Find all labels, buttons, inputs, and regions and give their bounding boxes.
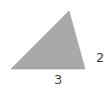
base-length-label: 3 xyxy=(54,72,62,87)
triangle-shape xyxy=(11,11,85,69)
side-length-label: 2 xyxy=(96,50,104,65)
triangle-diagram: 3 2 xyxy=(0,0,107,92)
